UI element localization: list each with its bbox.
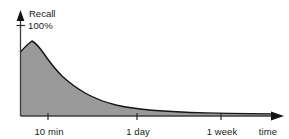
- y-tick-label-100: 100%: [28, 20, 53, 31]
- recall-area-fill: [21, 41, 273, 116]
- arrow-right-icon: [271, 112, 284, 121]
- x-tick-label-10min: 10 min: [34, 126, 63, 137]
- forgetting-curve-chart: Recall 100% 10 min 1 day 1 week time: [0, 0, 289, 139]
- x-tick-label-1week: 1 week: [207, 126, 238, 137]
- chart-canvas: Recall 100% 10 min 1 day 1 week time: [0, 0, 289, 139]
- arrow-up-icon: [17, 10, 25, 21]
- x-axis-title: time: [259, 126, 277, 137]
- x-tick-label-1day: 1 day: [126, 126, 150, 137]
- y-axis-title: Recall: [29, 8, 55, 19]
